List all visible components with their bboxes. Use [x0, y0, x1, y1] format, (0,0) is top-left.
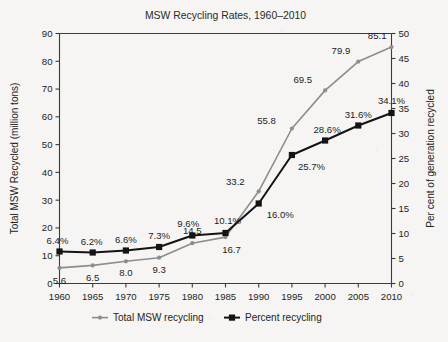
data-point-marker: [90, 249, 96, 255]
data-point-marker: [124, 259, 128, 263]
data-point-label: 34.1%: [378, 95, 406, 106]
y2-axis-tick-label: 45: [399, 53, 410, 64]
y-axis-tick-label: 90: [42, 28, 53, 39]
data-point-label: 31.6%: [345, 109, 373, 120]
legend-circle-marker: [98, 316, 102, 320]
y-axis-tick-label: 0: [47, 278, 52, 289]
series-total-msw-recycling: 5.66.58.09.314.516.733.255.869.579.985.1: [53, 30, 394, 286]
y2-axis-tick-label: 5: [399, 253, 404, 264]
x-axis-tick-label: 1970: [115, 291, 136, 302]
chart-figure: MSW Recycling Rates, 1960–20100102030405…: [0, 0, 448, 342]
y2-axis-tick-label: 0: [399, 278, 404, 289]
data-point-marker: [323, 88, 327, 92]
data-point-marker: [290, 126, 294, 130]
data-point-label: 9.6%: [177, 218, 199, 229]
data-point-label: 28.6%: [313, 124, 341, 135]
y-axis-tick-label: 80: [42, 56, 53, 67]
y2-axis-tick-label: 25: [399, 153, 410, 164]
x-axis-tick-label: 1960: [49, 291, 70, 302]
y-axis-tick-label: 50: [42, 139, 53, 150]
data-point-label: 5.6: [53, 275, 66, 286]
data-point-label: 6.5: [86, 272, 99, 283]
data-point-marker: [189, 232, 195, 238]
legend-label-1: Total MSW recycling: [113, 312, 204, 323]
chart-title: MSW Recycling Rates, 1960–2010: [145, 10, 306, 21]
legend-label-2: Percent recycling: [245, 312, 322, 323]
y2-axis-label: Per cent of generation recycled: [425, 89, 436, 227]
data-point-label: 79.9: [332, 45, 351, 56]
x-axis-tick-label: 1990: [248, 291, 269, 302]
data-point-label: 16.7: [222, 244, 241, 255]
data-point-marker: [355, 122, 361, 128]
data-point-label: 16.0%: [267, 209, 295, 220]
y-axis-tick-label: 70: [42, 83, 53, 94]
x-axis-tick-label: 2010: [381, 291, 402, 302]
data-point-marker: [256, 200, 262, 206]
data-point-label: 55.8: [257, 115, 276, 126]
data-point-marker: [91, 263, 95, 267]
y-axis-tick-label: 10: [42, 250, 53, 261]
chart-legend: Total MSW recyclingPercent recycling: [92, 312, 322, 323]
y-axis-tick-label: 30: [42, 195, 53, 206]
y-axis-tick-label: 20: [42, 222, 53, 233]
x-axis-tick-label: 1975: [148, 291, 169, 302]
data-point-marker: [190, 241, 194, 245]
data-point-label: 6.6%: [115, 234, 137, 245]
data-point-label: 25.7%: [298, 161, 326, 172]
x-axis-tick-label: 1985: [215, 291, 236, 302]
data-point-marker: [157, 256, 161, 260]
data-point-marker: [123, 247, 129, 253]
x-axis-tick-label: 1995: [281, 291, 302, 302]
y-axis-tick-label: 40: [42, 167, 53, 178]
y2-axis-tick-label: 30: [399, 128, 410, 139]
x-axis-tick-label: 1965: [82, 291, 103, 302]
y2-axis-tick-label: 15: [399, 203, 410, 214]
y2-axis-tick-label: 40: [399, 78, 410, 89]
data-point-marker: [322, 137, 328, 143]
data-point-marker: [389, 45, 393, 49]
data-point-marker: [56, 248, 62, 254]
data-point-marker: [222, 230, 228, 236]
data-point-marker: [356, 59, 360, 63]
data-point-label: 8.0: [119, 267, 132, 278]
data-point-marker: [289, 152, 295, 158]
data-point-label: 9.3: [152, 264, 165, 275]
y2-axis-tick-label: 10: [399, 228, 410, 239]
x-axis-tick-label: 1980: [182, 291, 203, 302]
y-axis-label: Total MSW Recycled (million tons): [9, 83, 20, 235]
data-point-label: 6.4%: [47, 235, 69, 246]
data-point-label: 85.1: [368, 30, 387, 41]
data-point-label: 10.1%: [214, 215, 242, 226]
legend-square-marker: [229, 315, 235, 321]
y2-axis-tick-label: 20: [399, 178, 410, 189]
msw-recycling-rates-chart: MSW Recycling Rates, 1960–20100102030405…: [0, 0, 448, 342]
data-point-marker: [388, 110, 394, 116]
x-axis-tick-label: 2000: [314, 291, 335, 302]
x-axis-tick-label: 2005: [348, 291, 369, 302]
data-point-label: 7.3%: [148, 230, 170, 241]
data-point-label: 6.2%: [81, 236, 103, 247]
data-point-label: 33.2: [226, 176, 245, 187]
data-point-marker: [57, 266, 61, 270]
data-point-marker: [257, 189, 261, 193]
y-axis-tick-label: 60: [42, 111, 53, 122]
data-point-marker: [156, 244, 162, 250]
data-point-label: 69.5: [293, 74, 312, 85]
y2-axis-tick-label: 50: [399, 28, 410, 39]
